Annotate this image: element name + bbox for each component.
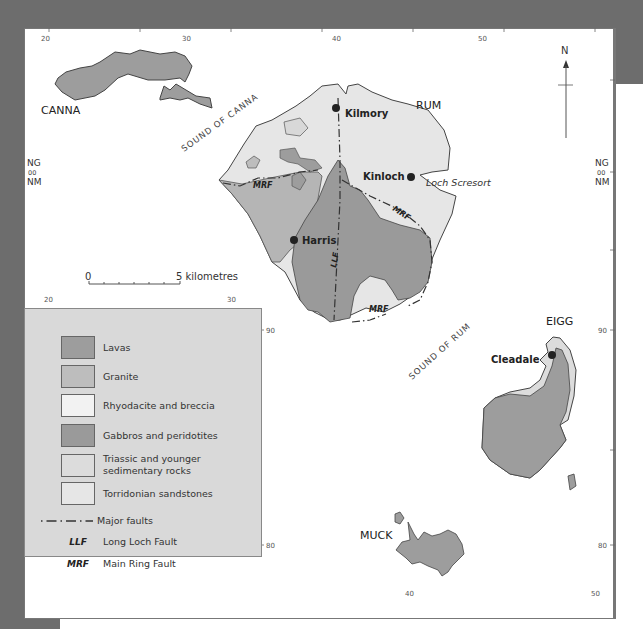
fault-label-mrf-south: MRF (369, 305, 389, 314)
swatch-gabbros (61, 424, 95, 447)
island-label-muck: MUCK (360, 529, 393, 542)
grid-label-bottom-40: 40 (405, 590, 414, 598)
swatch-lavas (61, 336, 95, 359)
settlement-label-harris: Harris (302, 235, 336, 246)
legend-item-rhyodacite: Rhyodacite and breccia (61, 394, 215, 417)
island-label-eigg: EIGG (546, 315, 573, 328)
grid-label-inner-80: 80 (266, 542, 275, 550)
fault-line-symbol (39, 516, 95, 526)
grid-label-left-ng: NG (27, 158, 41, 168)
grid-label-top-20: 20 (41, 35, 50, 43)
grid-label-inner-90: 90 (266, 327, 275, 335)
top-grid-ticks (49, 28, 595, 32)
grid-label-top-50: 50 (478, 35, 487, 43)
grid-label-left-nm: NM (27, 177, 42, 187)
settlement-label-kilmory: Kilmory (345, 108, 389, 119)
island-label-rum: RUM (416, 99, 441, 112)
grid-label-top-40: 40 (332, 35, 341, 43)
legend-label-triassic-line1: Triassic and younger (103, 453, 201, 464)
svg-text:5 kilometres: 5 kilometres (176, 271, 238, 282)
settlement-dot-cleadale (548, 351, 556, 359)
swatch-granite (61, 365, 95, 388)
legend-item-major-faults: Major faults (39, 515, 153, 527)
grid-label-bottom-50: 50 (591, 590, 600, 598)
map-legend: Lavas Granite Rhyodacite and breccia Gab… (24, 308, 262, 557)
grid-label-right-80: 80 (598, 542, 607, 550)
legend-item-torridonian: Torridonian sandstones (61, 482, 213, 505)
north-arrow: N (558, 45, 573, 138)
settlement-dot-harris (290, 236, 298, 244)
island-muck (395, 512, 464, 576)
feature-label-loch-scresort: Loch Scresort (426, 177, 492, 188)
grid-label-left-00: 00 (28, 169, 36, 177)
legend-item-triassic: Triassic and younger sedimentary rocks (61, 453, 201, 477)
grid-label-top-30: 30 (182, 35, 191, 43)
grid-label-right-90: 90 (598, 327, 607, 335)
grid-label-right-00: 00 (597, 169, 605, 177)
legend-item-mrf: MRF Main Ring Fault (61, 558, 176, 570)
svg-text:N: N (561, 45, 568, 56)
scale-bar: 0 5 kilometres (85, 271, 238, 284)
swatch-triassic (61, 454, 95, 477)
swatch-torridonian (61, 482, 95, 505)
svg-text:0: 0 (85, 271, 91, 282)
island-canna (55, 50, 212, 108)
fault-label-mrf-west: MRF (253, 181, 273, 190)
swatch-rhyodacite (61, 394, 95, 417)
grid-label-right-nm: NM (595, 177, 610, 187)
grid-label-inner-20: 20 (44, 296, 53, 304)
legend-label-triassic-line2: sedimentary rocks (103, 465, 191, 476)
settlement-dot-kinloch (407, 173, 415, 181)
island-rum (219, 84, 456, 322)
sea-label-sound-of-rum: SOUND OF RUM (407, 321, 473, 382)
settlement-label-kinloch: Kinloch (363, 171, 405, 182)
settlement-dot-kilmory (332, 104, 340, 112)
legend-item-granite: Granite (61, 365, 138, 388)
grid-label-inner-30: 30 (227, 296, 236, 304)
settlement-label-cleadale: Cleadale (491, 354, 540, 365)
legend-item-gabbros: Gabbros and peridotites (61, 424, 218, 447)
island-label-canna: CANNA (41, 104, 81, 117)
legend-item-lavas: Lavas (61, 336, 131, 359)
legend-item-llf: LLF Long Loch Fault (61, 536, 177, 548)
grid-label-right-ng: NG (595, 158, 609, 168)
